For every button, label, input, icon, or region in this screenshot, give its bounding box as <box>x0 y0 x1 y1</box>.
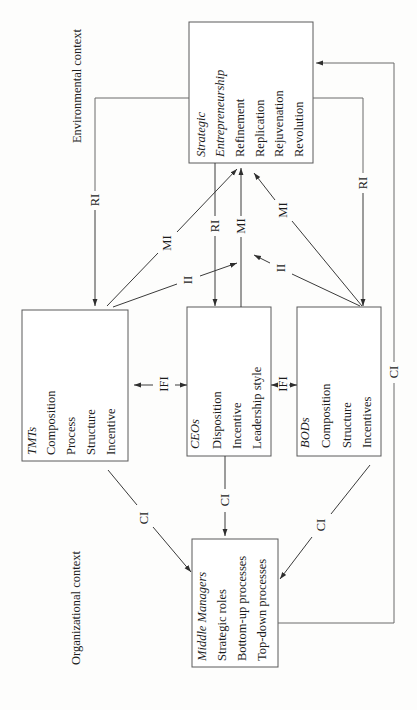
link-label: IFI <box>157 376 171 391</box>
link-label: MI <box>160 235 174 250</box>
box-item: Incentive <box>104 408 118 455</box>
link-ri-se-to-ceos: RI <box>208 163 222 306</box>
ceos-box: CEOs Disposition Incentive Leadership st… <box>187 307 271 456</box>
box-item: Composition <box>319 383 333 448</box>
box-item: Composition <box>44 390 58 455</box>
link-ci-tmts-to-mm: CI <box>108 470 191 572</box>
box-item: Structure <box>84 409 98 455</box>
box-item: Refinement <box>233 98 247 157</box>
link-ii-tmts: II <box>113 263 237 307</box>
link-label: RI <box>208 220 222 233</box>
link-label: CI <box>314 519 328 532</box>
link-label: II <box>274 264 288 272</box>
middle-managers-box: Middle Managers Strategic roles Bottom-u… <box>192 539 278 667</box>
link-label: II <box>181 276 195 284</box>
box-title: CEOs <box>188 419 202 449</box>
strategic-entrepreneurship-diagram: Environmental context Organizational con… <box>0 0 417 710</box>
box-title: Middle Managers <box>195 572 209 662</box>
box-item: Strategic roles <box>215 589 229 661</box>
box-item: Top-down processes <box>255 559 269 661</box>
box-item: Incentives <box>360 396 374 448</box>
box-title: Strategic <box>194 111 208 157</box>
box-item: Process <box>64 417 78 455</box>
link-ri-se-to-tmts: RI <box>88 98 189 306</box>
link-ifi-tmts-ceos: IFI <box>134 376 187 391</box>
box-item: Structure <box>340 402 354 448</box>
environmental-context-label: Environmental context <box>70 28 84 143</box>
bods-box: BODs Composition Structure Incentives <box>297 307 381 456</box>
box-item: Replication <box>253 99 267 157</box>
tmts-box: TMTs Composition Process Structure Incen… <box>22 310 128 461</box>
link-ci-ceos-to-mm: CI <box>218 456 232 536</box>
box-item: Disposition <box>210 391 224 449</box>
link-label: MI <box>234 218 248 233</box>
link-label: IFI <box>276 376 290 391</box>
link-ii-bods: II <box>254 255 360 306</box>
box-item: Incentive <box>230 402 244 449</box>
box-title: BODs <box>298 417 312 448</box>
link-ci-bods-to-mm: CI <box>280 465 370 579</box>
box-item: Rejuvenation <box>272 90 286 157</box>
link-ri-se-to-bods: RI <box>313 98 370 306</box>
link-label: CI <box>387 366 401 379</box>
link-mi-ceos-to-se: MI <box>234 168 248 307</box>
link-mi-bods-to-se: MI <box>254 173 362 306</box>
strategic-entrepreneurship-box: Strategic Entrepreneurship Refinement Re… <box>189 22 313 163</box>
link-label: RI <box>356 177 370 190</box>
link-label: MI <box>276 202 290 217</box>
link-ifi-ceos-bods: IFI <box>271 376 297 391</box>
link-label: CI <box>137 512 151 525</box>
organizational-context-label: Organizational context <box>69 550 83 664</box>
box-item: Leadership style <box>250 366 264 449</box>
link-label: CI <box>218 494 232 507</box>
box-item: Bottom-up processes <box>235 556 249 661</box>
box-title: TMTs <box>25 427 39 455</box>
box-title: Entrepreneurship <box>213 70 227 158</box>
link-label: RI <box>88 194 102 207</box>
box-item: Revolution <box>292 101 306 157</box>
